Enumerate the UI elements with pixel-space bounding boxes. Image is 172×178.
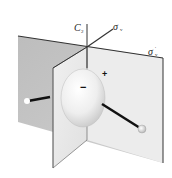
c2-label-sub: 2 <box>81 29 84 34</box>
sign-minus: − <box>80 81 86 93</box>
sigma-v-label: σ <box>113 21 119 32</box>
atom-left <box>24 98 30 104</box>
sigma-v-prime-label: σ <box>148 46 154 57</box>
c2-label: C <box>74 22 81 33</box>
sign-plus: + <box>102 69 107 79</box>
sigma-v-prime-label-mark: ′ <box>155 46 156 51</box>
sigma-v-axis-line <box>87 29 113 47</box>
sigma-v-prime-label-sub: v <box>155 52 158 57</box>
orbital-lobe <box>61 69 105 127</box>
symmetry-diagram: − + C 2 σ v σ v ′ <box>0 0 172 178</box>
sigma-v-label-sub: v <box>120 27 123 32</box>
atom-right <box>138 125 146 133</box>
